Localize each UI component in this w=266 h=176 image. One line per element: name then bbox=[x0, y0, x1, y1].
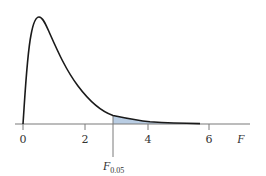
x-tick-label-2: 2 bbox=[82, 133, 89, 146]
density-curve bbox=[23, 17, 200, 124]
critical-value-subscript: 0.05 bbox=[110, 166, 124, 175]
x-tick-label-4: 4 bbox=[145, 133, 152, 146]
x-tick-label-0: 0 bbox=[20, 133, 27, 146]
critical-value-label: F0.05 bbox=[102, 159, 124, 175]
x-tick-label-6: 6 bbox=[206, 133, 213, 146]
f-distribution-chart: 0 2 4 6 F F0.05 bbox=[0, 0, 266, 176]
x-axis-variable-label: F bbox=[236, 132, 245, 146]
